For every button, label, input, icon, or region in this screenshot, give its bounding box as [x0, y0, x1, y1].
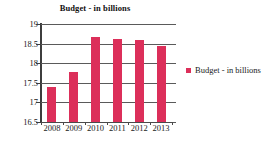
y-axis-tick-right: [172, 24, 176, 25]
bar: [47, 87, 56, 122]
y-axis-tick: [36, 44, 41, 45]
x-axis-tick-label: 2012: [128, 124, 150, 133]
x-axis-tick: [85, 122, 86, 125]
bar: [113, 39, 122, 122]
plot-area: [41, 24, 172, 122]
x-axis-tick: [150, 122, 151, 125]
y-axis-tick-right: [172, 63, 176, 64]
x-axis-tick-labels: 200820092010201120122013: [41, 124, 172, 138]
x-axis-tick-label: 2011: [107, 124, 129, 133]
chart-legend: Budget - in billions: [186, 66, 261, 75]
y-axis-tick-labels: 1918.51817.51716.5: [0, 0, 38, 145]
x-axis-tick: [63, 122, 64, 125]
x-axis-tick-label: 2008: [41, 124, 63, 133]
x-axis-tick-label: 2013: [150, 124, 172, 133]
y-axis-tick-right: [172, 44, 176, 45]
bars-layer: [41, 24, 172, 122]
y-axis-tick: [36, 83, 41, 84]
y-axis-tick-label: 17: [2, 98, 38, 107]
legend-label: Budget - in billions: [195, 66, 261, 75]
y-axis-tick-label: 19: [2, 20, 38, 29]
bar: [91, 37, 100, 122]
y-axis-tick-right: [172, 102, 176, 103]
y-axis-tick-label: 16.5: [2, 118, 38, 127]
bar: [157, 46, 166, 122]
bar-chart: Budget - in billions 1918.51817.51716.5 …: [0, 0, 276, 145]
x-axis-tick-label: 2010: [85, 124, 107, 133]
x-axis-tick: [128, 122, 129, 125]
y-axis-tick: [36, 63, 41, 64]
y-axis-tick: [36, 102, 41, 103]
bar: [69, 72, 78, 122]
y-axis-tick-label: 17.5: [2, 79, 38, 88]
bar: [135, 40, 144, 122]
x-axis-tick-label: 2009: [63, 124, 85, 133]
x-axis-tick: [41, 122, 42, 125]
y-axis-tick-label: 18.5: [2, 40, 38, 49]
y-axis-tick-right: [172, 83, 176, 84]
y-axis-tick-label: 18: [2, 59, 38, 68]
x-axis-tick: [172, 122, 173, 125]
y-axis-tick: [36, 24, 41, 25]
x-axis-tick: [107, 122, 108, 125]
legend-square-marker-icon: [186, 68, 191, 73]
